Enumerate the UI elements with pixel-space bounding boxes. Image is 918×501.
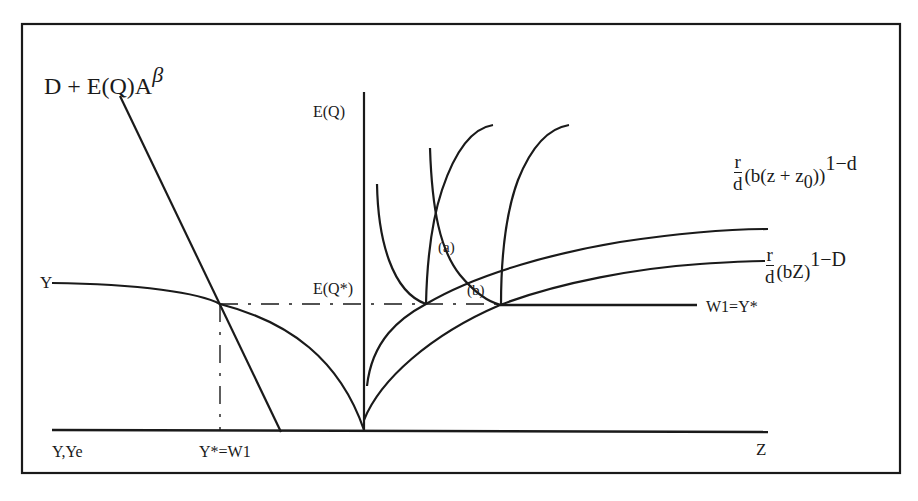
lower-curve-formula: r d (bZ)1−D: [765, 245, 846, 286]
upper-formula-prefix: (b(z + z: [745, 165, 804, 186]
upper-formula-fraction: r d: [733, 152, 743, 193]
formula-base: D + E(Q)A: [44, 73, 152, 99]
upper-formula-subscript: 0: [804, 172, 813, 192]
upper-formula-num: r: [734, 152, 742, 173]
point-a-label: (a): [438, 240, 455, 255]
eq-star-label: E(Q*): [313, 281, 353, 297]
diagonal-line-formula: D + E(Q)Aβ: [44, 64, 163, 98]
lower-formula-base: (bZ): [777, 261, 811, 282]
lower-formula-num: r: [766, 245, 774, 266]
bottom-left-label: Y,Ye: [52, 444, 83, 460]
upper-formula-den: d: [733, 173, 743, 193]
lower-formula-fraction: r d: [765, 245, 775, 286]
y-curve: [52, 283, 364, 430]
rising-curve-2: [501, 125, 569, 305]
isoquant-curve-1: [377, 184, 426, 304]
lower-formula-den: d: [765, 266, 775, 286]
diagonal-cost-line: [120, 96, 281, 432]
upper-formula-suffix: )): [813, 165, 826, 186]
y-curve-label: Y: [40, 274, 52, 291]
vertical-axis-label: E(Q): [313, 104, 345, 120]
bottom-mid-label: Y*=W1: [199, 444, 251, 460]
formula-superscript: β: [152, 62, 163, 87]
point-b-label: (b): [467, 283, 485, 298]
lower-formula-superscript: 1−D: [810, 248, 846, 270]
lower-formula-body: (bZ)1−D: [777, 248, 847, 283]
z-axis-label: Z: [756, 441, 766, 458]
upper-formula-body: (b(z + z0))1−d: [745, 152, 857, 193]
lower-envelope-curve: [364, 261, 765, 420]
w1-line-label: W1=Y*: [706, 299, 758, 315]
upper-curve-formula: r d (b(z + z0))1−d: [733, 152, 857, 193]
isoquant-curve-2: [430, 148, 501, 305]
upper-formula-superscript: 1−d: [825, 152, 856, 174]
horizontal-axis: [52, 430, 768, 432]
